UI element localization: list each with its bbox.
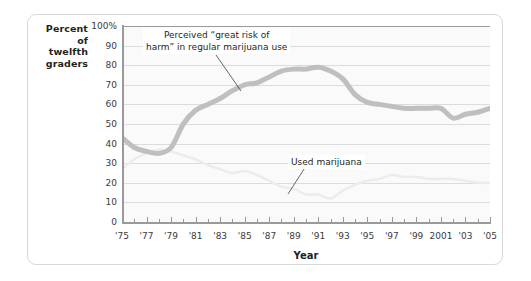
x-tick-major: [343, 217, 344, 223]
x-tick-major: [196, 217, 197, 223]
y-tick-label: 50: [77, 119, 117, 129]
x-tick-minor: [232, 219, 233, 223]
x-tick-minor: [355, 219, 356, 223]
y-axis-line: [122, 25, 124, 223]
y-tick-label: 100%: [77, 21, 117, 31]
annotation-perceived-risk: Perceived “great risk ofharm” in regular…: [143, 28, 290, 54]
y-tick-label: 30: [77, 158, 117, 168]
x-tick-label: 2001: [429, 231, 452, 241]
annotation-perceived-risk-line: Perceived “great risk of: [146, 29, 287, 41]
x-tick-major: [269, 217, 270, 223]
chart-lines: [122, 26, 490, 222]
x-tick-major: [171, 217, 172, 223]
x-tick-minor: [208, 219, 209, 223]
annotation-perceived-risk-line: harm” in regular marijuana use: [146, 41, 287, 53]
x-tick-label: '83: [213, 231, 227, 241]
y-tick-label: 80: [77, 60, 117, 70]
x-tick-minor: [134, 219, 135, 223]
x-tick-label: '05: [483, 231, 497, 241]
x-tick-major: [220, 217, 221, 223]
x-tick-label: '99: [409, 231, 423, 241]
x-tick-major: [147, 217, 148, 223]
x-tick-minor: [183, 219, 184, 223]
x-tick-minor: [159, 219, 160, 223]
x-tick-label: '95: [360, 231, 374, 241]
x-tick-major: [465, 217, 466, 223]
y-axis-tick-labels: 100%9080706050403020100: [73, 26, 117, 222]
x-tick-label: '77: [140, 231, 154, 241]
x-tick-label: '97: [385, 231, 399, 241]
x-tick-major: [318, 217, 319, 223]
x-tick-major: [122, 217, 123, 223]
y-tick-label: 40: [77, 139, 117, 149]
annotation-used-marijuana: Used marijuana: [288, 155, 365, 169]
x-tick-minor: [306, 219, 307, 223]
x-tick-minor: [380, 219, 381, 223]
x-tick-minor: [331, 219, 332, 223]
x-tick-major: [245, 217, 246, 223]
x-tick-minor: [429, 219, 430, 223]
x-axis-title: Year: [122, 250, 490, 261]
x-tick-minor: [404, 219, 405, 223]
x-tick-label: '81: [189, 231, 203, 241]
x-tick-major: [490, 217, 491, 223]
x-tick-major: [441, 217, 442, 223]
x-tick-label: '87: [262, 231, 276, 241]
annotation-used-marijuana-line: Used marijuana: [291, 156, 362, 168]
plot-area: [122, 26, 490, 222]
y-tick-label: 90: [77, 41, 117, 51]
y-tick-label: 60: [77, 99, 117, 109]
x-tick-major: [392, 217, 393, 223]
x-tick-label: '89: [287, 231, 301, 241]
x-tick-label: '03: [458, 231, 472, 241]
x-tick-label: '93: [336, 231, 350, 241]
y-tick-label: 10: [77, 197, 117, 207]
y-tick-label: 20: [77, 178, 117, 188]
x-axis-tick-labels: '75'77'79'81'83'85'87'89'91'93'95'97'992…: [122, 231, 490, 245]
x-tick-minor: [281, 219, 282, 223]
x-tick-minor: [257, 219, 258, 223]
x-tick-minor: [478, 219, 479, 223]
x-tick-label: '79: [164, 231, 178, 241]
x-tick-label: '75: [115, 231, 129, 241]
x-tick-major: [367, 217, 368, 223]
x-tick-label: '85: [238, 231, 252, 241]
x-tick-label: '91: [311, 231, 325, 241]
x-axis-tickmarks: [122, 216, 490, 223]
x-tick-major: [294, 217, 295, 223]
line-perceived-risk: [122, 67, 490, 153]
x-tick-minor: [453, 219, 454, 223]
x-tick-major: [416, 217, 417, 223]
y-tick-label: 70: [77, 80, 117, 90]
y-tick-label: 0: [77, 217, 117, 227]
